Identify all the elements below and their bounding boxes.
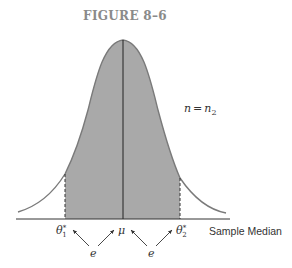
distribution-diagram: n=n2 θ*1 μ θ*2 Sample Median e e — [0, 0, 292, 268]
theta2-label: θ*2 — [176, 224, 187, 239]
arrow-e-right-to-mu — [131, 230, 147, 246]
theta1-label: θ*1 — [56, 224, 67, 239]
e-left-label: e — [90, 247, 97, 260]
axis-label: Sample Median — [209, 225, 282, 237]
arrow-e-left-to-theta1 — [73, 230, 89, 246]
e-right-label: e — [148, 247, 155, 260]
mu-label: μ — [118, 224, 125, 237]
sample-size-annotation: n=n2 — [184, 102, 217, 117]
arrow-e-left-to-mu — [98, 230, 114, 246]
arrow-e-right-to-theta2 — [156, 230, 172, 246]
